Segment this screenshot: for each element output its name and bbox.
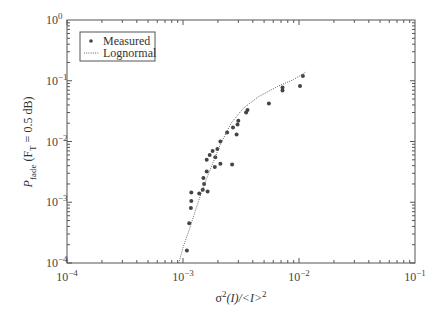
- measured-point: [205, 158, 209, 162]
- measured-point: [218, 162, 222, 166]
- measured-point: [189, 199, 193, 203]
- x-tick-label: 10−2: [288, 268, 310, 284]
- y-tick-label: 10−1: [46, 72, 68, 88]
- measured-point: [298, 84, 302, 88]
- legend-label-lognormal: Lognormal: [103, 46, 157, 60]
- measured-point: [205, 170, 209, 174]
- measured-point: [236, 123, 240, 127]
- measured-point: [211, 149, 215, 153]
- measured-point: [236, 119, 240, 123]
- legend-marker-measured-icon: [89, 39, 93, 43]
- measured-point: [197, 191, 201, 195]
- measured-point: [246, 108, 250, 112]
- measured-point: [206, 190, 210, 194]
- measured-point: [189, 206, 193, 210]
- measured-point: [218, 140, 222, 144]
- measured-point: [301, 74, 305, 78]
- y-tick-label: 10−2: [46, 133, 68, 149]
- measured-point: [235, 133, 239, 137]
- chart: 10−410−310−210−1 10010−110−210−310−4 σ2(…: [0, 0, 442, 314]
- measured-point: [267, 102, 271, 106]
- x-tick-label: 10−1: [404, 268, 426, 284]
- measured-point: [189, 190, 193, 194]
- y-tick-labels: 10010−110−210−310−4: [46, 11, 68, 270]
- measured-point: [213, 155, 217, 159]
- measured-point: [208, 153, 212, 157]
- x-tick-label: 10−4: [56, 268, 78, 284]
- x-axis-label: σ2(I)/<I>2: [216, 289, 267, 305]
- y-tick-label: 10−4: [46, 254, 68, 270]
- lognormal-curve: [179, 72, 306, 263]
- y-tick-label: 10−3: [46, 193, 68, 209]
- plot-area: [179, 72, 306, 263]
- measured-point: [225, 131, 229, 135]
- y-tick-label: 100: [46, 11, 63, 27]
- y-axis-label: Pfade (FT = 0.5 dB): [21, 97, 38, 189]
- measured-point: [281, 86, 285, 90]
- measured-point: [213, 165, 217, 169]
- measured-point: [230, 162, 234, 166]
- x-tick-label: 10−3: [172, 268, 194, 284]
- legend: Measured Lognormal: [80, 32, 157, 61]
- measured-point: [231, 126, 235, 130]
- x-tick-labels: 10−410−310−210−1: [56, 268, 426, 284]
- measured-point: [201, 176, 205, 180]
- measured-point: [185, 249, 189, 253]
